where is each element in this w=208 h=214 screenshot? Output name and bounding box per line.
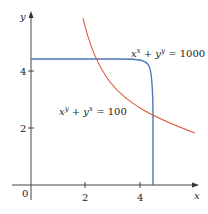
origin-label: 0 — [22, 188, 28, 199]
annotation-100: xy + yx = 100 — [59, 105, 127, 117]
curve-x-pow-x-plus-y-pow-y — [31, 59, 153, 185]
x-axis-label: x — [194, 190, 200, 201]
x-tick-label-2: 2 — [82, 192, 88, 203]
y-axis-arrow-icon — [29, 11, 34, 18]
chart: 2 4 4 2 0 y x xx + yy = 1000 xy + yx = 1… — [0, 0, 208, 214]
y-axis-label: y — [19, 11, 26, 22]
x-tick-label-4: 4 — [137, 192, 143, 203]
y-tick-label-2: 2 — [20, 123, 26, 134]
x-axis-arrow-icon — [192, 183, 199, 188]
annotation-1000: xx + yy = 1000 — [131, 47, 205, 59]
y-tick-label-4: 4 — [20, 66, 26, 77]
